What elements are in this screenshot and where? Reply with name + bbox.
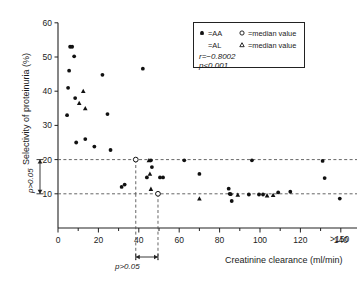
legend-label-al-median: =median value	[248, 42, 296, 49]
legend-label-aa: =AA	[208, 30, 222, 37]
data-point-aa	[227, 187, 231, 191]
data-point-aa	[92, 145, 96, 149]
x-axis-title: Creatinine clearance (ml/min)	[225, 256, 343, 265]
y-axis-title: Selectivity of proteinuria (%)	[22, 53, 31, 165]
data-point-aa	[247, 193, 251, 197]
data-point-aa	[106, 112, 110, 116]
data-point-aa	[74, 141, 78, 145]
data-point-aa	[70, 45, 74, 49]
y-axis-tick-label: 20	[43, 155, 53, 165]
data-point-aa	[198, 172, 202, 176]
median-marker-aa	[133, 157, 138, 162]
legend-stat-p: p<0.001	[199, 62, 228, 70]
data-point-aa	[321, 159, 325, 163]
y-axis-tick-label: 30	[43, 120, 53, 130]
data-point-al	[197, 196, 202, 200]
data-point-aa	[261, 193, 265, 197]
median-marker-aa	[156, 191, 161, 196]
data-point-aa	[141, 67, 145, 71]
data-point-aa	[323, 176, 327, 180]
y-axis-tick-label: 40	[43, 86, 53, 96]
data-point-aa	[182, 158, 186, 162]
y-axis-tick-label: 50	[43, 52, 53, 62]
data-point-aa	[72, 54, 76, 58]
legend-stat-r: r=−0.8002	[199, 53, 235, 61]
p-value-horizontal-arrowhead-left	[136, 255, 140, 260]
x-axis-tick-label: 20	[94, 235, 104, 245]
data-point-al	[235, 192, 240, 196]
y-axis-tick-label: 10	[43, 189, 53, 199]
legend-label-aa-median: =median value	[248, 30, 296, 37]
data-point-al	[148, 172, 153, 176]
data-point-aa	[66, 86, 70, 90]
x-axis-tick-label: 100	[253, 235, 267, 245]
data-point-aa	[73, 96, 77, 100]
data-point-aa	[150, 165, 154, 169]
data-point-aa	[288, 190, 292, 194]
data-point-aa	[230, 199, 234, 203]
data-point-aa	[276, 191, 280, 195]
y-axis-tick-label: 60	[43, 18, 53, 28]
data-point-aa	[101, 73, 105, 77]
data-point-aa	[338, 197, 342, 201]
data-point-aa	[250, 158, 254, 162]
data-point-aa	[229, 192, 233, 196]
x-axis-tick-label: 80	[215, 235, 225, 245]
data-point-aa	[83, 137, 87, 141]
p-value-vertical-label: p>0.05	[27, 168, 35, 193]
legend-box: =AA =median value =AL =median value r=−0…	[193, 22, 305, 68]
data-point-aa	[109, 148, 113, 152]
legend-label-al: =AL	[208, 42, 221, 49]
data-point-aa	[120, 185, 124, 189]
data-point-aa	[257, 193, 261, 197]
data-point-aa	[65, 113, 69, 117]
x-axis-tick-label: 60	[174, 235, 184, 245]
data-point-aa	[161, 175, 165, 179]
data-point-aa	[67, 69, 71, 73]
p-value-horizontal-arrowhead-right	[154, 255, 158, 260]
x-axis-tick-label: 0	[56, 235, 61, 245]
data-point-al	[83, 106, 88, 110]
data-point-al	[149, 187, 154, 191]
data-point-al	[81, 89, 86, 93]
x-axis-end-label: >150	[330, 235, 349, 244]
x-axis-tick-label: 120	[293, 235, 307, 245]
data-point-al	[77, 101, 82, 105]
p-value-horizontal-label: p>0.05	[115, 263, 140, 271]
data-point-aa	[123, 183, 127, 187]
data-point-aa	[145, 175, 149, 179]
